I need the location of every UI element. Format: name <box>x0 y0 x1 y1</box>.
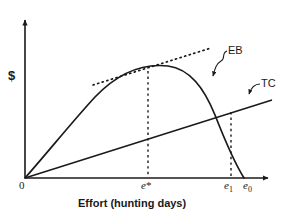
eb-callout-arrow <box>213 51 227 76</box>
tick-label-e-star-sup: * <box>146 179 152 191</box>
eb-curve-label: EB <box>228 45 243 56</box>
tc-callout-arrow <box>249 84 260 94</box>
tc-line-label: TC <box>261 78 276 89</box>
tick-label-e0-sub: 0 <box>248 185 252 194</box>
tick-label-e1-sub: 1 <box>229 185 233 194</box>
economics-figure: $ 0 Effort (hunting days) e* e1 e0 EB TC <box>0 0 297 219</box>
x-axis-title: Effort (hunting days) <box>78 198 186 209</box>
tick-label-e0: e0 <box>243 180 252 194</box>
tick-label-e1: e1 <box>224 180 233 194</box>
origin-label: 0 <box>19 180 25 191</box>
y-axis-label: $ <box>8 69 15 82</box>
tick-label-e-star: e* <box>141 180 151 191</box>
eb-curve <box>25 65 244 178</box>
